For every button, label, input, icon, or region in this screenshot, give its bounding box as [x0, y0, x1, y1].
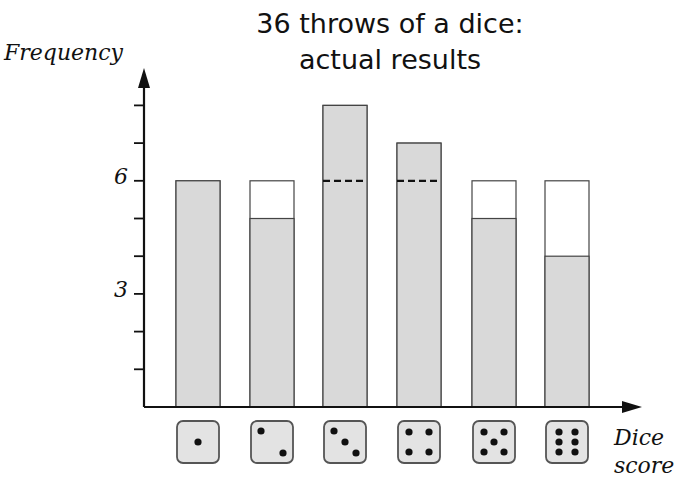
die-face-5-icon: [473, 421, 515, 463]
bar-actual-5: [472, 219, 516, 408]
x-axis-arrow-icon: [622, 401, 642, 413]
die-face-1-icon: [177, 421, 219, 463]
bar-actual-2: [250, 219, 294, 408]
bar-actual-6: [545, 256, 589, 407]
die-face-3-icon: [324, 421, 366, 463]
die-face-6-icon: [546, 421, 588, 463]
die-face-4-icon: [398, 421, 440, 463]
bar-chart: [0, 0, 676, 481]
y-axis-arrow-icon: [138, 68, 150, 88]
die-face-2-icon: [251, 421, 293, 463]
bar-actual-4: [397, 143, 441, 407]
bar-actual-3: [323, 105, 367, 407]
bar-actual-1: [176, 181, 220, 407]
